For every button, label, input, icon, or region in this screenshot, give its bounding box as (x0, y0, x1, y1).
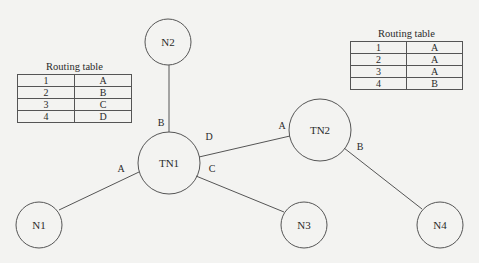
port-cell: A (407, 42, 463, 54)
dest-cell: 1 (18, 75, 75, 87)
routing-table-tn2-title: Routing table (350, 28, 463, 39)
port-label-tn1-c: C (209, 163, 216, 174)
port-cell: A (407, 66, 463, 78)
node-n1-label: N1 (32, 219, 45, 231)
table-row: 4D (18, 111, 132, 123)
table-row: 4B (351, 78, 463, 90)
port-cell: B (75, 87, 132, 99)
link-tn1-n1 (59, 172, 139, 210)
node-n1: N1 (16, 202, 62, 248)
node-tn2: TN2 (289, 99, 351, 161)
node-n3-label: N3 (297, 219, 311, 231)
dest-cell: 3 (351, 66, 407, 78)
port-cell: A (75, 75, 132, 87)
node-tn1-label: TN1 (159, 157, 179, 169)
port-cell: D (75, 111, 132, 123)
port-label-tn1-b: B (158, 117, 165, 128)
table-row: 1A (18, 75, 132, 87)
node-n4-label: N4 (433, 219, 447, 231)
table-row: 3C (18, 99, 132, 111)
link-tn2-n4 (344, 148, 422, 209)
port-label-tn1-d: D (205, 131, 212, 142)
dest-cell: 1 (351, 42, 407, 54)
routing-table-tn2-grid: 1A 2A 3A 4B (350, 41, 463, 90)
port-label-tn2-b: B (357, 141, 364, 152)
node-tn1: TN1 (138, 132, 200, 194)
table-row: 2B (18, 87, 132, 99)
dest-cell: 2 (18, 87, 75, 99)
node-n4: N4 (417, 202, 463, 248)
dest-cell: 4 (351, 78, 407, 90)
node-n2-label: N2 (161, 36, 174, 48)
node-n3: N3 (281, 202, 327, 248)
routing-table-tn1-grid: 1A 2B 3C 4D (17, 74, 132, 123)
routing-table-tn1-title: Routing table (17, 61, 132, 72)
table-row: 2A (351, 54, 463, 66)
node-tn2-label: TN2 (310, 124, 330, 136)
link-tn1-n3 (196, 176, 284, 212)
port-cell: B (407, 78, 463, 90)
link-tn1-tn2 (199, 136, 290, 157)
port-cell: A (407, 54, 463, 66)
port-cell: C (75, 99, 132, 111)
port-label-tn1-a: A (117, 163, 125, 174)
dest-cell: 2 (351, 54, 407, 66)
table-row: 3A (351, 66, 463, 78)
table-row: 1A (351, 42, 463, 54)
dest-cell: 4 (18, 111, 75, 123)
routing-table-tn2: Routing table 1A 2A 3A 4B (350, 28, 463, 90)
port-label-tn2-a: A (278, 120, 286, 131)
routing-table-tn1: Routing table 1A 2B 3C 4D (17, 61, 132, 123)
node-n2: N2 (145, 19, 191, 65)
dest-cell: 3 (18, 99, 75, 111)
